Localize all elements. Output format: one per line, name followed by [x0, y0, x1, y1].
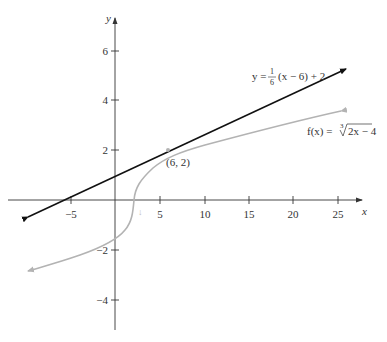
tangent-line-series — [28, 69, 346, 217]
x-tick-label: 5 — [157, 208, 163, 220]
x-tick-label: 10 — [200, 208, 212, 220]
x-tick-label: 25 — [333, 208, 345, 220]
curve-eq-index: 3 — [340, 122, 344, 130]
line-eq-numerator: 1 — [270, 67, 274, 76]
line-eq-denominator: 6 — [270, 78, 274, 87]
point-label: (6, 2) — [166, 156, 190, 169]
y-tick-labels: 6 4 2 −2 −4 — [96, 45, 108, 306]
y-tick-label: −4 — [96, 294, 108, 306]
x-axis-label: x — [361, 205, 367, 217]
x-tick-labels: −5 5 10 15 20 25 — [65, 208, 344, 220]
line-eq-suffix: (x − 6) + 2 — [278, 70, 325, 83]
y-tick-label: 4 — [103, 94, 109, 106]
x-tick-label: 20 — [288, 208, 300, 220]
tangent-point — [166, 148, 170, 152]
chart-canvas: −5 5 10 15 20 25 6 4 2 −2 −4 y x (6, 2) … — [0, 0, 387, 342]
y-tick-label: 6 — [103, 45, 109, 57]
y-tick-label: 2 — [103, 144, 109, 156]
small-mark: ↓ — [138, 207, 143, 217]
line-eq-prefix: y = — [252, 70, 266, 82]
curve-eq-prefix: f(x) = — [307, 125, 332, 138]
curve-eq-radicand: 2x − 4 — [348, 125, 377, 137]
curve-series — [28, 111, 341, 271]
x-tick-label: −5 — [65, 208, 77, 220]
curve-equation: f(x) = 3 2x − 4 — [307, 122, 377, 138]
x-tick-label: 15 — [244, 208, 256, 220]
y-axis-label: y — [105, 12, 111, 24]
